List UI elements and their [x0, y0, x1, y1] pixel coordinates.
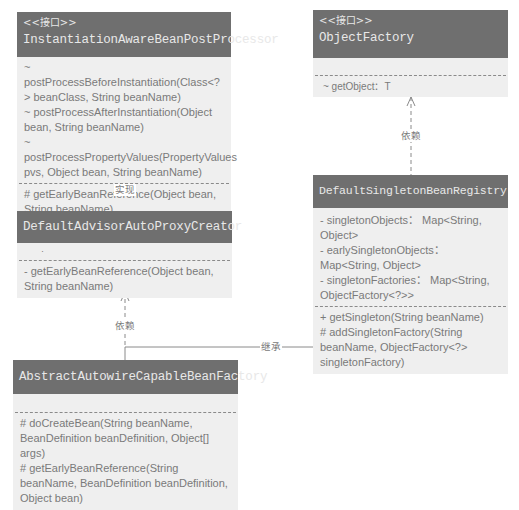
class-header: AbstractAutowireCapableBeanFactory: [13, 360, 238, 394]
class-name: DefaultAdvisorAutoProxyCreator: [23, 217, 226, 237]
class-abstract-autowire-capable-bean-factory[interactable]: AbstractAutowireCapableBeanFactory # doC…: [13, 360, 238, 510]
attributes-section: ·: [17, 243, 232, 260]
method: ~ getObject：T: [323, 79, 502, 94]
method: - getEarlyBeanReference(Object bean, Str…: [24, 264, 226, 294]
class-header: DefaultAdvisorAutoProxyCreator: [17, 211, 232, 243]
methods-section: + getSingleton(String beanName) # addSin…: [313, 307, 508, 374]
dependency-label: 依赖: [114, 320, 136, 332]
methods-section: # doCreateBean(String beanName, BeanDefi…: [13, 413, 238, 510]
stereotype-label: <<接口>>: [23, 16, 225, 30]
class-header: <<接口>> InstantiationAwareBeanPostProcess…: [17, 12, 231, 57]
class-object-factory[interactable]: <<接口>> ObjectFactory ~ getObject：T: [313, 10, 508, 97]
method: ~ postProcessPropertyValues(PropertyValu…: [24, 135, 225, 180]
class-header: DefaultSingletonBeanRegistry: [313, 175, 508, 208]
method: + getSingleton(String beanName): [320, 310, 502, 325]
attribute: - singletonObjects： Map<String, Object>: [320, 213, 502, 243]
class-default-singleton-bean-registry[interactable]: DefaultSingletonBeanRegistry - singleton…: [313, 175, 508, 374]
class-header: <<接口>> ObjectFactory: [313, 10, 508, 58]
methods-section: ~ postProcessBeforeInstantiation(Class<?…: [17, 57, 231, 183]
dependency-label: 依赖: [400, 130, 422, 142]
attribute: - earlySingletonObjects： Map<String, Obj…: [320, 243, 502, 273]
class-name: InstantiationAwareBeanPostProcessor: [23, 30, 225, 50]
class-name: ObjectFactory: [319, 28, 502, 48]
method: # getEarlyBeanReference(String beanName,…: [20, 461, 232, 506]
method: # addSingletonFactory(String beanName, O…: [320, 325, 502, 370]
class-name: AbstractAutowireCapableBeanFactory: [19, 367, 232, 387]
inheritance-label: 继承: [260, 341, 282, 353]
attribute: - singletonFactories： Map<String, Object…: [320, 273, 502, 303]
attribute: ·: [41, 246, 226, 257]
methods-section: ~ getObject：T: [313, 76, 508, 97]
attributes-section: [313, 58, 508, 75]
realization-label: 实现: [114, 184, 136, 196]
class-name: DefaultSingletonBeanRegistry: [319, 181, 502, 201]
stereotype-label: <<接口>>: [319, 14, 502, 28]
attributes-section: [13, 394, 238, 412]
method: ~ postProcessAfterInstantiation(Object b…: [24, 105, 225, 135]
attributes-section: - singletonObjects： Map<String, Object> …: [313, 208, 508, 306]
methods-section: - getEarlyBeanReference(Object bean, Str…: [17, 261, 232, 298]
class-default-advisor-auto-proxy-creator[interactable]: DefaultAdvisorAutoProxyCreator · - getEa…: [17, 211, 232, 298]
method: ~ postProcessBeforeInstantiation(Class<?…: [24, 60, 225, 105]
method: # doCreateBean(String beanName, BeanDefi…: [20, 416, 232, 461]
